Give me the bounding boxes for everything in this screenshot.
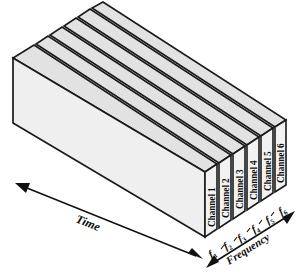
channel-label-2: Channel 2 [221, 178, 231, 218]
channel-stack-diagram: Channel 1 Channel 2 Channel 3 Channel 4 … [0, 0, 304, 273]
frequency-tick-label-1: f1 [206, 247, 218, 261]
time-axis-arrowhead-left [15, 183, 30, 193]
channel-label-3: Channel 3 [235, 169, 245, 209]
channel-label-1: Channel 1 [207, 187, 217, 227]
frequency-tick-5 [271, 212, 274, 216]
channel-label-5: Channel 5 [263, 151, 273, 191]
channel-label-4: Channel 4 [249, 160, 259, 200]
frequency-tick-3 [247, 228, 250, 232]
time-axis-arrowhead-right [188, 248, 203, 259]
frequency-tick-4 [259, 220, 262, 224]
time-axis-title: Time [74, 212, 103, 234]
figure-root: Channel 1 Channel 2 Channel 3 Channel 4 … [0, 0, 304, 273]
channel-label-6: Channel 6 [276, 143, 286, 183]
